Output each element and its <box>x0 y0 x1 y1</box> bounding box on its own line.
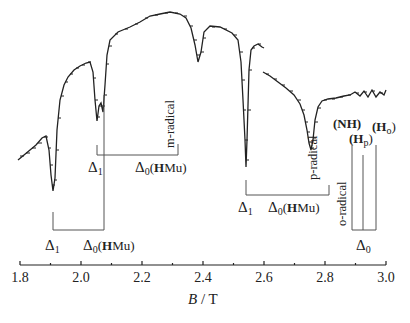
x-axis-unit: / T <box>197 291 218 307</box>
label-delta1-hmu: Δ1 <box>45 238 60 255</box>
label-delta0-p: Δ0(HMu) <box>268 200 320 217</box>
delta-symbol: Δ <box>45 237 55 253</box>
x-axis-variable: B <box>188 291 197 307</box>
x-tick-label: 2.2 <box>133 270 151 286</box>
label-p-radical: p-radical <box>306 136 321 180</box>
label-nh: (NH) <box>333 117 361 130</box>
label-delta0-o: Δ0 <box>356 238 371 255</box>
subscript: 1 <box>55 244 60 255</box>
x-axis-title: B / T <box>188 292 218 307</box>
x-tick-label: 2.0 <box>72 270 90 286</box>
x-tick-label: 2.6 <box>255 270 273 286</box>
label-delta1-m: Δ1 <box>88 160 103 177</box>
subscript: 0 <box>366 244 371 255</box>
hmu-text: (HMu) <box>150 160 187 175</box>
label-delta0-hmu: Δ0(HMu) <box>83 238 135 255</box>
delta-symbol: Δ <box>88 159 98 175</box>
subscript: 1 <box>98 166 103 177</box>
hmu-text: (HMu) <box>98 238 135 253</box>
x-tick-label: 2.8 <box>316 270 334 286</box>
x-tick-label: 3.0 <box>377 270 395 286</box>
x-axis <box>20 261 386 265</box>
delta-symbol: Δ <box>83 237 93 253</box>
delta-symbol: Δ <box>238 199 248 215</box>
delta-symbol: Δ <box>135 159 145 175</box>
label-ho: (Ho) <box>372 120 396 136</box>
label-hp: (Hp) <box>349 132 373 148</box>
delta-symbol: Δ <box>268 199 278 215</box>
delta-symbol: Δ <box>356 237 366 253</box>
bracket-o-radical <box>352 145 376 230</box>
label-delta0-m: Δ0(HMu) <box>135 160 187 177</box>
label-o-radical: o-radical <box>335 182 350 226</box>
label-delta1-p: Δ1 <box>238 200 253 217</box>
hmu-text: (HMu) <box>283 200 320 215</box>
subscript: 1 <box>248 206 253 217</box>
x-tick-label: 2.4 <box>194 270 212 286</box>
bracket-p-radical <box>246 180 329 195</box>
label-m-radical: m-radical <box>163 100 178 148</box>
x-tick-label: 1.8 <box>11 270 29 286</box>
